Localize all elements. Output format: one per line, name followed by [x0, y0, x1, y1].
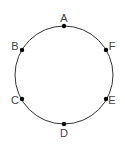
point-e-label: E — [108, 94, 115, 106]
point-b-marker — [20, 48, 24, 52]
point-a-marker — [62, 24, 66, 28]
point-b-label: B — [11, 40, 18, 52]
point-d-marker — [62, 122, 66, 126]
circle-diagram: ABCDEF — [0, 0, 125, 154]
points-group: ABCDEF — [11, 12, 116, 139]
point-c-marker — [20, 97, 24, 101]
point-c-label: C — [11, 94, 19, 106]
point-f-label: F — [109, 40, 116, 52]
point-f-marker — [104, 48, 108, 52]
point-d-label: D — [60, 127, 68, 139]
point-a-label: A — [60, 12, 68, 24]
circle — [15, 26, 113, 124]
